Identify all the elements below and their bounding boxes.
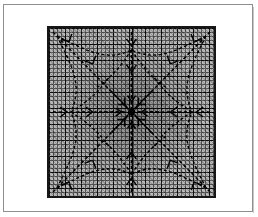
plot-inner (49, 28, 214, 196)
y-axis-label (4, 5, 5, 6)
x-axis-label (4, 5, 5, 6)
figure-caption (4, 5, 5, 6)
figure-outer-frame: Radially symmetric star/snowflake field … (3, 4, 253, 212)
figure-page: Radially symmetric star/snowflake field … (0, 0, 258, 217)
plot-area (47, 26, 216, 198)
vector-field (49, 28, 214, 196)
figure-description: Radially symmetric star/snowflake field … (4, 5, 5, 6)
figure-title (4, 5, 5, 6)
